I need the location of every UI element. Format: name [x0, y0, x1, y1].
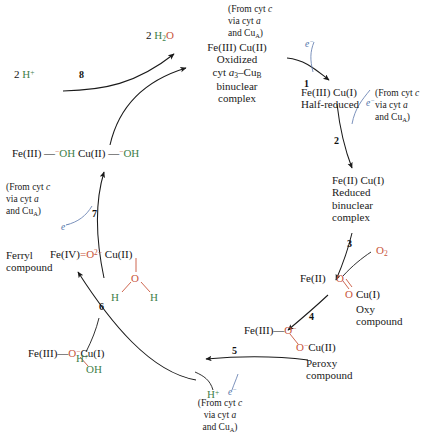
source-note-tr-cyt-c: c — [268, 4, 272, 14]
arrow-step-5 — [206, 357, 308, 360]
step-number-7: 7 — [92, 208, 97, 219]
hydroxy-oh-group: OH — [86, 363, 102, 375]
arrow-step-8 — [110, 68, 186, 145]
source-note-tr-line1-pre: (From cyt — [228, 4, 268, 14]
ferryl-name-line1: Ferryl — [6, 249, 52, 261]
oxidized-complex-label: Fe(III) Cu(II) Oxidized cyt a3–CuB binuc… — [178, 41, 296, 104]
oxidized-metals: Fe(III) Cu(II) — [178, 41, 296, 53]
half-reduced-label: Fe(III) Cu(I) Half-reduced — [301, 86, 359, 111]
source-note-b-cyt-c: c — [238, 398, 242, 408]
source-note-l-cyt-a: a — [34, 194, 39, 204]
dihydroxy-dash-2: — — [108, 147, 119, 159]
o2-feed-path — [343, 252, 371, 276]
arrow-step-7 — [97, 172, 104, 278]
dihydroxy-dash-1: — — [44, 147, 55, 159]
peroxy-cu: Cu(II) — [308, 341, 336, 353]
source-note-b-cyt-a: a — [232, 410, 237, 420]
dihydroxy-oh-1: OH — [59, 147, 75, 159]
peroxy-lower: O−Cu(II) — [296, 341, 336, 353]
step-number-6: 6 — [99, 301, 104, 312]
source-note-tr-cyt-a: a — [256, 16, 261, 26]
source-note-left: (From cyt c via cyt a and CuA) — [6, 182, 50, 217]
source-note-r-line3-pre: and Cu — [375, 112, 402, 122]
proton-symbol: H — [22, 68, 30, 80]
reduced-line3: complex — [332, 211, 384, 223]
source-note-b-line3-pre: and Cu — [202, 422, 229, 432]
source-note-b-line1-pre: (From cyt — [198, 398, 238, 408]
source-note-r-cyt-a: a — [403, 100, 408, 110]
ferryl-oxygen-charge: 2− — [94, 248, 102, 257]
peroxy-fe: Fe(III) — [244, 324, 273, 336]
water-count: 2 — [146, 29, 152, 41]
source-note-b-line3-post: ) — [234, 422, 237, 432]
source-note-tr-line2-pre: via cyt — [228, 16, 256, 26]
oxy-name-line2: compound — [356, 315, 402, 327]
dihydroxy-fe: Fe(III) — [12, 147, 41, 159]
source-note-l-line3-post: ) — [38, 206, 41, 216]
source-note-tr-line3-pre: and Cu — [228, 28, 255, 38]
hydroxy-intermediate-structure: Fe(III)—O−Cu(I) — [28, 347, 104, 359]
dihydroxy-structure: Fe(III) —−OH Cu(II) —−OH — [12, 147, 139, 159]
oxy-fe: Fe(II) — [300, 272, 326, 284]
electron-5-charge: − — [232, 386, 236, 393]
water-hydrogen: H — [154, 29, 162, 41]
oxidized-line1: Oxidized — [178, 53, 296, 65]
proton-charge: + — [30, 68, 34, 77]
reduced-metals: Fe(II) Cu(I) — [332, 174, 384, 186]
electron-label-2: e− — [366, 97, 375, 108]
step-number-5: 5 — [232, 345, 237, 356]
ferryl-structure: Fe(IV)=O2− Cu(II) — [50, 248, 132, 260]
peroxy-compound-name: Peroxy compound — [306, 357, 352, 382]
electron-label-7: e− — [61, 221, 70, 232]
peroxy-name-line1: Peroxy — [306, 357, 352, 369]
o2-symbol: O — [376, 244, 384, 256]
oxidized-cub-dash: –Cu — [238, 66, 256, 78]
water-output-label: 2 H2O — [146, 29, 174, 43]
source-note-b-line2-pre: via cyt — [204, 410, 232, 420]
oxidized-cub-sub: B — [256, 70, 261, 79]
ferryl-cu: Cu(II) — [105, 248, 133, 260]
peroxy-structure: Fe(III)—O− — [244, 324, 297, 336]
peroxy-oxygen-bottom: O — [296, 341, 304, 353]
peroxy-name-line2: compound — [306, 369, 352, 381]
step-number-3: 3 — [347, 238, 352, 249]
oxy-compound-name: Oxy compound — [356, 303, 402, 328]
proton-5-charge: + — [215, 388, 219, 397]
source-note-l-line2-pre: via cyt — [6, 194, 34, 204]
o2-subscript: 2 — [384, 249, 388, 258]
reduced-line1: Reduced — [332, 186, 384, 198]
oxidized-line3: binuclear — [178, 80, 296, 92]
electron-1-charge: − — [309, 38, 313, 45]
water-oxygen: O — [166, 29, 174, 41]
oxidized-line2: cyt a3–CuB — [178, 66, 296, 80]
arrow-step-2 — [337, 104, 352, 168]
oxidized-cyt-pre: cyt — [213, 66, 229, 78]
proton-label-6: H+ — [76, 352, 88, 364]
hydroxy-dash: — — [57, 347, 68, 359]
electron-label-5: e− — [228, 386, 237, 397]
reduced-line2: binuclear — [332, 199, 384, 211]
dihydroxy-oh-2: OH — [123, 147, 139, 159]
source-note-r-line1-pre: (From cyt — [375, 88, 415, 98]
source-note-l-cyt-c: c — [46, 182, 50, 192]
oxy-oxygen-bottom: O — [345, 288, 353, 300]
proton-6-symbol: H — [76, 352, 84, 364]
hydroxy-fe: Fe(III) — [28, 347, 57, 359]
ferryl-fe: Fe(IV) — [50, 248, 80, 260]
reduced-complex-label: Fe(II) Cu(I) Reduced binuclear complex — [332, 174, 384, 223]
half-reduced-metals: Fe(III) Cu(I) — [301, 86, 359, 98]
oxy-fe-label: Fe(II) — [300, 272, 326, 284]
dihydroxy-cu: Cu(II) — [78, 147, 106, 159]
source-note-r-cyt-c: c — [415, 88, 419, 98]
source-note-r-line2-pre: via cyt — [375, 100, 403, 110]
step-number-2: 2 — [334, 135, 339, 146]
proton-input-label: 2 H+ — [14, 68, 34, 80]
electron-path-7 — [66, 206, 92, 225]
source-note-l-line1-pre: (From cyt — [6, 182, 46, 192]
electron-label-1: e− — [305, 38, 314, 49]
diagram-canvas: 2 H2O 2 H+ (From cyt c via cyt a and CuA… — [0, 0, 443, 438]
source-note-tr-line3-post: ) — [260, 28, 263, 38]
proton-count: 2 — [14, 68, 20, 80]
ferryl-compound-name: Ferryl compound — [6, 249, 52, 274]
source-note-l-line3-pre: and Cu — [6, 206, 33, 216]
